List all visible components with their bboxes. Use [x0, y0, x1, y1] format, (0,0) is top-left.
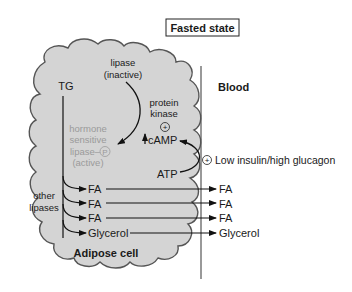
svg-text:+: +	[205, 156, 210, 165]
atp-label: ATP	[157, 168, 178, 180]
plus-icon-signal: +	[203, 156, 212, 166]
hsl-label-1: hormone	[69, 123, 107, 134]
other-lipases-label-1: other	[33, 190, 55, 201]
hsl-label-2: sensitive	[70, 134, 107, 145]
blood-product-fa-2: FA	[219, 198, 233, 210]
svg-text:+: +	[163, 123, 168, 132]
cell-product-fa-1: FA	[88, 183, 102, 195]
title-box: Fasted state	[166, 19, 239, 36]
camp-label: cAMP	[148, 134, 177, 146]
lipase-inactive-label-1: lipase	[111, 57, 136, 68]
tg-label: TG	[58, 80, 73, 92]
cell-product-fa-3: FA	[88, 212, 102, 224]
lipolysis-diagram: Fasted state Blood lipase (inactive) TG …	[0, 0, 352, 292]
lipase-inactive-label-2: (inactive)	[104, 69, 143, 80]
hsl-label-3: lipase–	[70, 146, 101, 157]
adipose-cell-label: Adipose cell	[74, 247, 139, 259]
blood-product-fa-1: FA	[219, 183, 233, 195]
svg-text:P: P	[102, 148, 107, 157]
hsl-label-4: (active)	[72, 157, 103, 168]
cell-product-fa-2: FA	[88, 198, 102, 210]
title: Fasted state	[170, 22, 234, 34]
protein-kinase-label-2: kinase	[150, 108, 177, 119]
protein-kinase-label-1: protein	[149, 97, 178, 108]
cell-product-glycerol: Glycerol	[88, 227, 128, 239]
blood-product-glycerol: Glycerol	[219, 227, 259, 239]
blood-label: Blood	[218, 81, 249, 93]
signal-label: Low insulin/high glucagon	[215, 154, 335, 166]
blood-product-fa-3: FA	[219, 212, 233, 224]
other-lipases-label-2: lipases	[29, 202, 59, 213]
